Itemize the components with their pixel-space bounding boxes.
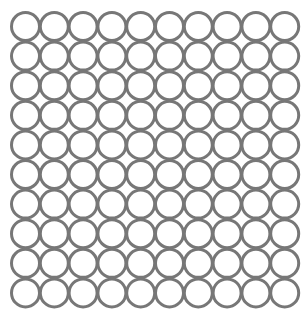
circle-r7-c8 xyxy=(242,220,270,248)
circle-r2-c0 xyxy=(12,72,40,100)
circle-r1-c3 xyxy=(98,42,126,70)
circle-r1-c1 xyxy=(40,42,68,70)
circle-r6-c1 xyxy=(40,190,68,218)
circle-r0-c3 xyxy=(98,13,126,41)
circle-r7-c3 xyxy=(98,220,126,248)
circle-r3-c3 xyxy=(98,101,126,129)
circle-r9-c0 xyxy=(12,279,40,307)
circle-r0-c2 xyxy=(69,13,97,41)
circle-r9-c2 xyxy=(69,279,97,307)
circle-r6-c2 xyxy=(69,190,97,218)
circle-r9-c3 xyxy=(98,279,126,307)
circle-r7-c1 xyxy=(40,220,68,248)
circle-r9-c1 xyxy=(40,279,68,307)
circle-r2-c2 xyxy=(69,72,97,100)
circle-r8-c8 xyxy=(242,249,270,277)
circle-r4-c5 xyxy=(156,131,184,159)
circle-r6-c4 xyxy=(127,190,155,218)
circle-r5-c7 xyxy=(213,161,241,189)
circle-r4-c7 xyxy=(213,131,241,159)
circle-r0-c0 xyxy=(12,13,40,41)
circle-r4-c8 xyxy=(242,131,270,159)
circle-r4-c3 xyxy=(98,131,126,159)
circle-r3-c5 xyxy=(156,101,184,129)
circle-r5-c9 xyxy=(271,161,299,189)
circle-r1-c0 xyxy=(12,42,40,70)
circle-r3-c0 xyxy=(12,101,40,129)
circle-r2-c3 xyxy=(98,72,126,100)
circle-r2-c9 xyxy=(271,72,299,100)
circle-r8-c2 xyxy=(69,249,97,277)
circle-r0-c4 xyxy=(127,13,155,41)
circle-r6-c5 xyxy=(156,190,184,218)
circle-r2-c5 xyxy=(156,72,184,100)
circle-r7-c7 xyxy=(213,220,241,248)
circle-r8-c6 xyxy=(184,249,212,277)
circle-r2-c1 xyxy=(40,72,68,100)
circle-r9-c5 xyxy=(156,279,184,307)
circle-r2-c6 xyxy=(184,72,212,100)
circle-r8-c7 xyxy=(213,249,241,277)
circle-r8-c3 xyxy=(98,249,126,277)
circle-r1-c7 xyxy=(213,42,241,70)
circle-r0-c1 xyxy=(40,13,68,41)
circle-r9-c6 xyxy=(184,279,212,307)
circle-r5-c5 xyxy=(156,161,184,189)
circle-r0-c5 xyxy=(156,13,184,41)
circle-r1-c6 xyxy=(184,42,212,70)
circle-grid xyxy=(0,0,308,316)
circle-r9-c7 xyxy=(213,279,241,307)
circle-r2-c7 xyxy=(213,72,241,100)
circle-r3-c9 xyxy=(271,101,299,129)
circle-r0-c8 xyxy=(242,13,270,41)
circle-r3-c2 xyxy=(69,101,97,129)
circle-r6-c6 xyxy=(184,190,212,218)
circle-r6-c7 xyxy=(213,190,241,218)
circle-r0-c6 xyxy=(184,13,212,41)
circle-r5-c3 xyxy=(98,161,126,189)
circle-r8-c9 xyxy=(271,249,299,277)
circle-r7-c6 xyxy=(184,220,212,248)
circle-r1-c8 xyxy=(242,42,270,70)
circle-r6-c9 xyxy=(271,190,299,218)
circle-r0-c7 xyxy=(213,13,241,41)
circle-r5-c8 xyxy=(242,161,270,189)
circle-r8-c4 xyxy=(127,249,155,277)
circle-r8-c5 xyxy=(156,249,184,277)
circle-r5-c6 xyxy=(184,161,212,189)
circle-r8-c1 xyxy=(40,249,68,277)
circle-r0-c9 xyxy=(271,13,299,41)
circle-r7-c9 xyxy=(271,220,299,248)
circle-r3-c1 xyxy=(40,101,68,129)
circle-r5-c4 xyxy=(127,161,155,189)
circle-r1-c9 xyxy=(271,42,299,70)
circle-r4-c9 xyxy=(271,131,299,159)
circle-r7-c2 xyxy=(69,220,97,248)
circle-r1-c2 xyxy=(69,42,97,70)
circle-r5-c0 xyxy=(12,161,40,189)
circle-r3-c4 xyxy=(127,101,155,129)
circle-r4-c4 xyxy=(127,131,155,159)
circle-r4-c2 xyxy=(69,131,97,159)
circle-r6-c3 xyxy=(98,190,126,218)
circle-r2-c8 xyxy=(242,72,270,100)
circle-r1-c4 xyxy=(127,42,155,70)
circle-r6-c8 xyxy=(242,190,270,218)
circle-r9-c8 xyxy=(242,279,270,307)
circle-r4-c6 xyxy=(184,131,212,159)
circle-r5-c1 xyxy=(40,161,68,189)
circle-r5-c2 xyxy=(69,161,97,189)
circle-r7-c4 xyxy=(127,220,155,248)
circle-r3-c7 xyxy=(213,101,241,129)
circle-r9-c9 xyxy=(271,279,299,307)
circle-r8-c0 xyxy=(12,249,40,277)
circle-r6-c0 xyxy=(12,190,40,218)
circle-r7-c5 xyxy=(156,220,184,248)
circle-r4-c0 xyxy=(12,131,40,159)
circle-r3-c8 xyxy=(242,101,270,129)
circle-r1-c5 xyxy=(156,42,184,70)
circle-r3-c6 xyxy=(184,101,212,129)
circle-r7-c0 xyxy=(12,220,40,248)
circle-r4-c1 xyxy=(40,131,68,159)
circle-r9-c4 xyxy=(127,279,155,307)
